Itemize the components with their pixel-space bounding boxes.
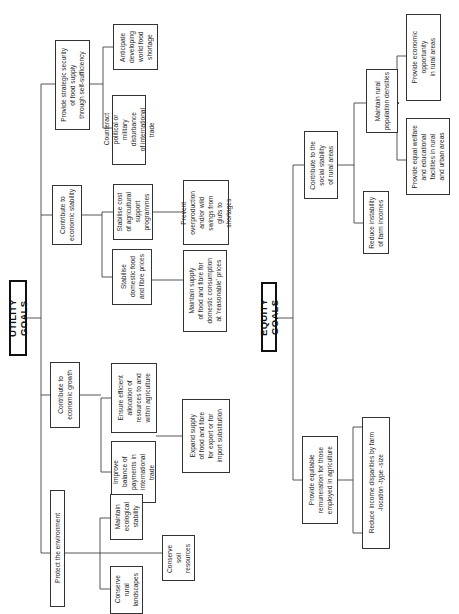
node-reduce-income-instability: Reduce instability of farm incomes [363,191,389,254]
node-reduce-income-disparities: Reduce income disparities by farm -locat… [362,417,390,549]
equity-goals-root: EQUITY GOALS [261,282,277,352]
node-ensure-efficient-allocation: Ensure efficient allocation of resources… [111,363,157,433]
node-maintain-rural-population: Maintain rural population densities [366,69,398,133]
node-maintain-supply: Maintain supply of food and fibre for do… [183,250,227,332]
node-provide-economic-opportunity: Provide economic opportunity in rural ar… [406,14,441,101]
node-protect-environment: Protect the environment [50,490,65,607]
node-conserve-soil: Conserve soil resources [162,535,195,581]
node-provide-equal-welfare: Provide equal welfare and educational fa… [406,118,450,195]
utility-goals-root: UTILITY GOALS [9,280,27,356]
node-stabilise-cost: Stabilise cost of agricultural support p… [113,184,153,240]
node-equitable-remuneration: Provide equitable remuneration for those… [302,436,338,524]
node-anticipate-shortage: Anticipate developing world food shortag… [113,24,158,70]
node-stabilise-domestic-prices: Stabilise domestic food and fibre prices [112,249,152,305]
node-strategic-security: Provide strategic security of food suppl… [55,40,90,130]
node-counteract-disturbance: Counteract political or military disturb… [112,95,146,165]
node-expand-supply: Expand supply of food and fibre for expo… [182,399,230,473]
node-economic-stability: Contribute to economic stability [52,185,82,245]
node-economic-growth: Contribute to economic growth [50,362,80,428]
node-conserve-landscapes: Conserve rural landscapes [110,566,143,614]
node-maintain-ecological-stability: Maintain ecological stability [110,494,143,540]
utility-goals-title: UTILITY GOALS [7,282,29,354]
node-prevent-overproduction: Prevent overproduction and/or wild swing… [183,180,229,245]
equity-goals-title: EQUITY GOALS [258,284,280,350]
node-social-stability: Contribute to the social stability of ru… [304,131,338,199]
